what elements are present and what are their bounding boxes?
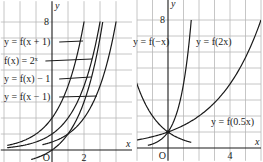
x-tick-label: 2 [82, 152, 87, 162]
curve-label: y = f(2x) [196, 36, 232, 48]
curve-2-x-1- [42, 3, 119, 145]
x-axis-label: x [125, 138, 131, 149]
y-axis-label: y [170, 0, 176, 9]
label-leader-line [59, 41, 83, 42]
origin-label: O [159, 150, 166, 161]
curve-label: f(x) = 2ˣ [4, 55, 38, 67]
left-panel-graph: xyO82y = f(x + 1)f(x) = 2ˣy = f(x) − 1y … [1, 0, 132, 162]
intersection-point [166, 130, 170, 134]
curve-label: y = f(x − 1) [4, 91, 50, 103]
curve-label: y = f(−x) [133, 36, 169, 48]
y-tick-label: 8 [160, 14, 165, 25]
right-panel-graph: xyO84y = f(−x)y = f(2x)y = f(0.5x) [122, 0, 262, 161]
curve-label: y = f(x + 1) [4, 36, 50, 48]
x-tick-label: 4 [228, 150, 233, 161]
y-axis-label: y [54, 0, 60, 11]
function-transformations-figure: xyO82y = f(x + 1)f(x) = 2ˣy = f(x) − 1y … [0, 0, 263, 162]
label-leader-line [59, 96, 97, 97]
grid-lines [137, 0, 261, 161]
curve-label: y = f(x) − 1 [4, 73, 50, 85]
x-axis-label: x [254, 136, 260, 147]
y-tick-label: 8 [44, 16, 49, 27]
curve-label: y = f(0.5x) [211, 116, 254, 128]
